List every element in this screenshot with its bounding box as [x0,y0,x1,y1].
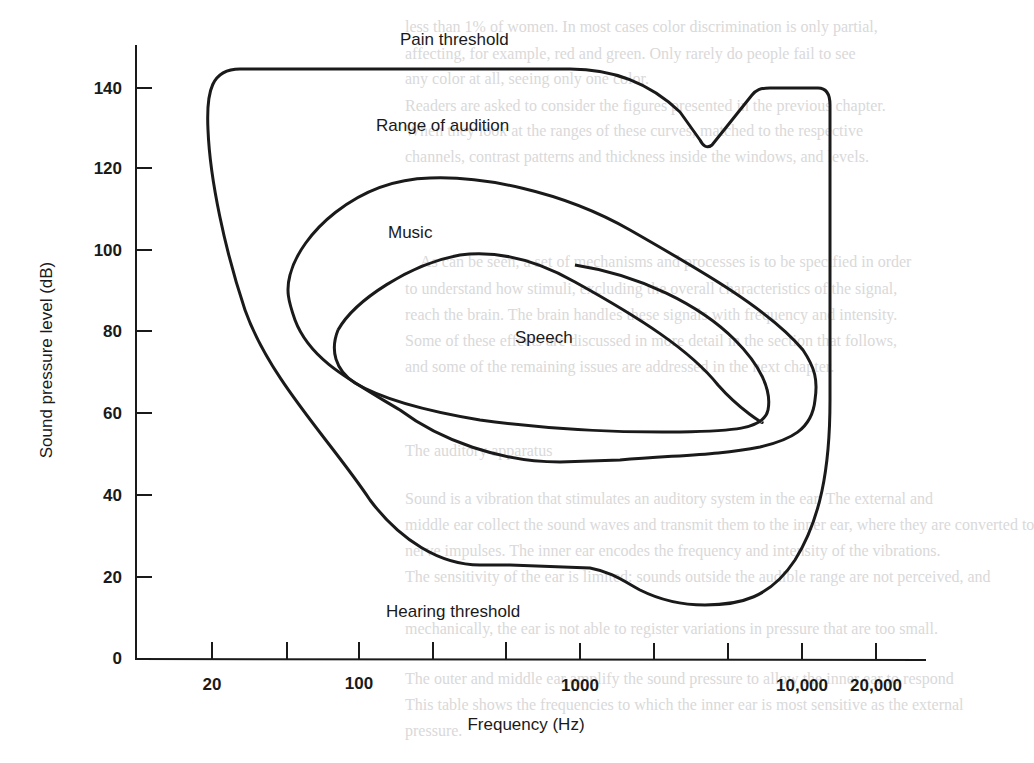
speech-label: Speech [515,328,573,347]
x-tick-label: 20 [203,675,222,694]
y-tick-label: 0 [113,649,122,668]
y-axis [136,45,152,660]
hearing-threshold-label: Hearing threshold [386,602,520,621]
y-tick-labels: 0 20 40 60 80 100 120 140 [94,79,122,668]
music-contour [288,178,816,462]
y-tick-label: 140 [94,79,122,98]
y-tick-label: 20 [103,568,122,587]
music-label: Music [388,223,433,242]
x-tick-label: 20,000 [850,676,902,695]
y-tick-label: 40 [103,486,122,505]
pain-threshold-label: Pain threshold [400,30,509,49]
y-tick-label: 100 [94,241,122,260]
y-axis-title: Sound pressure level (dB) [37,262,56,459]
range-of-audition-label: Range of audition [376,116,509,135]
x-tick-label: 100 [345,674,373,693]
x-tick-labels: 20 100 1000 10,000 20,000 [203,674,902,695]
x-axis [136,642,926,660]
y-tick-label: 120 [94,159,122,178]
y-tick-label: 60 [103,404,122,423]
x-axis-title: Frequency (Hz) [467,715,584,734]
x-tick-label: 10,000 [776,676,828,695]
y-tick-label: 80 [103,322,122,341]
x-tick-label: 1000 [561,676,599,695]
